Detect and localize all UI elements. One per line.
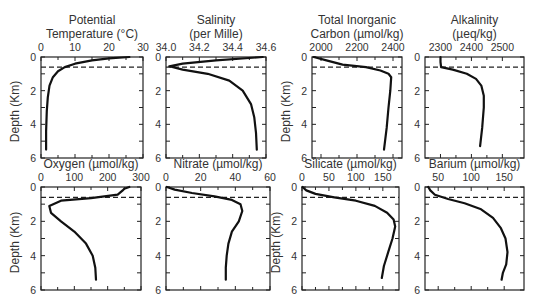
- panel-title: Carbon (µmol/kg): [311, 27, 404, 41]
- x-tick-label: 0: [163, 171, 169, 183]
- y-tick-label: 0: [30, 181, 36, 193]
- profile-curve: [167, 187, 242, 280]
- y-tick-label: 0: [30, 51, 36, 63]
- y-tick-label: 4: [30, 118, 36, 130]
- profiles-grid: PotentialTemperature (°C)01020300246Dept…: [0, 0, 539, 306]
- y-axis-label: Depth (Km): [8, 81, 22, 142]
- panel-title: Potential: [69, 13, 116, 27]
- y-tick-label: 4: [30, 250, 36, 262]
- x-tick-label: 100: [347, 171, 365, 183]
- x-tick-label: 150: [374, 171, 392, 183]
- y-tick-label: 4: [155, 118, 161, 130]
- x-tick-label: 0: [38, 41, 44, 53]
- y-tick-label: 2: [291, 215, 297, 227]
- x-tick-label: 100: [66, 171, 84, 183]
- panel-title: Barium (µmol/kg): [429, 157, 521, 171]
- y-axis-label: Depth (Km): [269, 212, 283, 273]
- panel-title: Silicate (µmol/kg): [304, 157, 396, 171]
- y-tick-label: 4: [414, 250, 420, 262]
- x-tick-label: 2400: [460, 41, 484, 53]
- x-tick-label: 100: [462, 171, 480, 183]
- profile-panel-5: Oxygen (µmol/kg)01002003000246Depth (Km): [8, 157, 150, 296]
- profile-panel-3: Total InorganicCarbon (µmol/kg)200022002…: [279, 13, 405, 164]
- profile-panel-7: Silicate (µmol/kg)0501001500246Depth (Km…: [269, 157, 399, 296]
- x-tick-label: 60: [264, 171, 276, 183]
- y-tick-label: 0: [155, 181, 161, 193]
- panel-title: Salinity: [197, 13, 236, 27]
- profile-curve: [428, 187, 507, 280]
- y-tick-label: 4: [291, 250, 297, 262]
- x-tick-label: 2500: [491, 41, 515, 53]
- y-tick-label: 4: [301, 118, 307, 130]
- x-tick-label: 50: [323, 171, 335, 183]
- plot-frame: [166, 187, 270, 290]
- x-tick-label: 0: [299, 171, 305, 183]
- y-tick-label: 0: [414, 181, 420, 193]
- y-tick-label: 0: [301, 51, 307, 63]
- y-tick-label: 2: [301, 85, 307, 97]
- y-tick-label: 0: [414, 51, 420, 63]
- profile-panel-6: Nitrate (µmol/kg)02040600246: [155, 157, 276, 296]
- panel-title: (per Mille): [189, 27, 242, 41]
- plot-frame: [425, 187, 524, 290]
- ocean-profile-figure: PotentialTemperature (°C)01020300246Dept…: [0, 0, 539, 306]
- panel-title: Total Inorganic: [318, 13, 396, 27]
- profile-curve: [46, 57, 129, 150]
- x-tick-label: 34.2: [189, 41, 210, 53]
- y-tick-label: 6: [414, 284, 420, 296]
- y-tick-label: 0: [155, 51, 161, 63]
- y-tick-label: 2: [30, 215, 36, 227]
- panel-title: Alkalinity: [451, 13, 498, 27]
- x-tick-label: 50: [432, 171, 444, 183]
- y-tick-label: 6: [30, 152, 36, 164]
- y-tick-label: 4: [155, 250, 161, 262]
- y-tick-label: 2: [414, 85, 420, 97]
- x-tick-label: 20: [195, 171, 207, 183]
- x-tick-label: 2200: [345, 41, 369, 53]
- y-tick-label: 6: [155, 284, 161, 296]
- profile-panel-2: Salinity(per Mille)34.034.234.434.60246: [155, 13, 276, 164]
- x-tick-label: 2400: [381, 41, 405, 53]
- x-tick-label: 34.6: [256, 41, 277, 53]
- panel-title: Oxygen (µmol/kg): [44, 157, 139, 171]
- y-tick-label: 4: [414, 118, 420, 130]
- x-tick-label: 150: [495, 171, 513, 183]
- y-axis-label: Depth (Km): [8, 212, 22, 273]
- plot-frame: [302, 187, 399, 290]
- x-tick-label: 34.4: [222, 41, 243, 53]
- panel-title: Nitrate (µmol/kg): [174, 157, 263, 171]
- y-tick-label: 6: [291, 284, 297, 296]
- x-tick-label: 0: [38, 171, 44, 183]
- x-tick-label: 2300: [429, 41, 453, 53]
- plot-frame: [425, 57, 524, 158]
- y-tick-label: 6: [414, 152, 420, 164]
- panel-title: (µeq/kg): [452, 27, 496, 41]
- x-tick-label: 300: [132, 171, 150, 183]
- profile-panel-4: Alkalinity(µeq/kg)2300240025000246: [414, 13, 524, 164]
- profile-curve: [169, 57, 262, 150]
- y-tick-label: 6: [30, 284, 36, 296]
- profile-curve: [303, 187, 396, 278]
- x-tick-label: 20: [103, 41, 115, 53]
- x-tick-label: 2000: [309, 41, 333, 53]
- profile-panel-8: Barium (µmol/kg)501001500246: [414, 157, 524, 296]
- y-tick-label: 2: [155, 215, 161, 227]
- y-tick-label: 0: [291, 181, 297, 193]
- profile-curve: [314, 57, 391, 150]
- x-tick-label: 40: [229, 171, 241, 183]
- profile-curve: [441, 57, 484, 146]
- y-tick-label: 2: [414, 215, 420, 227]
- y-axis-label: Depth (Km): [279, 81, 293, 142]
- y-tick-label: 2: [155, 85, 161, 97]
- profile-curve: [49, 187, 129, 280]
- x-tick-label: 10: [69, 41, 81, 53]
- panel-title: Temperature (°C): [46, 27, 138, 41]
- profile-panel-1: PotentialTemperature (°C)01020300246Dept…: [8, 13, 149, 164]
- y-tick-label: 6: [155, 152, 161, 164]
- y-tick-label: 2: [30, 85, 36, 97]
- x-tick-label: 200: [99, 171, 117, 183]
- x-tick-label: 30: [137, 41, 149, 53]
